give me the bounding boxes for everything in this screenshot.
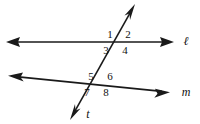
line-l-right-arrowhead (160, 37, 174, 47)
angle-label-7: 7 (84, 86, 90, 98)
angle-label-3: 3 (103, 44, 109, 56)
geometry-figure: ℓ m t 1 2 3 4 5 6 7 8 (0, 0, 200, 124)
angle-label-5: 5 (88, 70, 94, 82)
angle-label-8: 8 (103, 86, 109, 98)
line-t-label: t (86, 107, 90, 121)
line-l-group: ℓ (6, 34, 189, 48)
line-m-right-arrowhead (154, 89, 170, 98)
angle-label-2: 2 (125, 28, 131, 40)
line-l-left-arrowhead (6, 37, 20, 47)
line-t-top-arrowhead (125, 4, 136, 20)
line-l-label: ℓ (184, 34, 189, 48)
angle-label-1: 1 (107, 28, 113, 40)
line-m-group: m (8, 72, 191, 98)
angle-label-4: 4 (122, 44, 128, 56)
line-t-group: t (70, 4, 135, 121)
angle-label-6: 6 (107, 70, 113, 82)
line-t-bottom-arrowhead (70, 104, 81, 120)
line-m-label: m (182, 85, 191, 99)
geometry-diagram: ℓ m t 1 2 3 4 5 6 7 8 (0, 0, 200, 124)
